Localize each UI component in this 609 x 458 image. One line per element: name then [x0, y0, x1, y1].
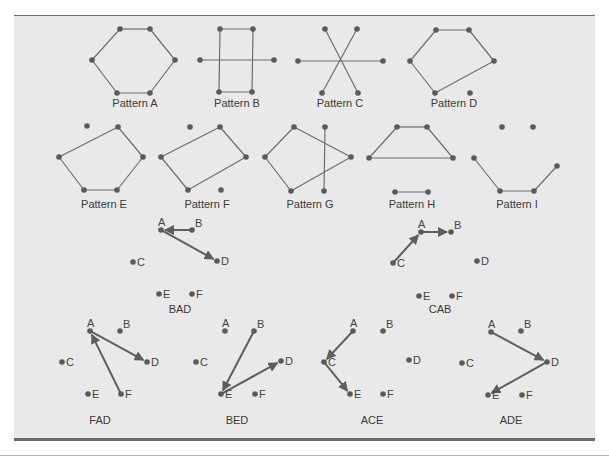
- point-label-b: B: [454, 219, 461, 231]
- node-dot: [140, 154, 146, 160]
- edge: [534, 166, 557, 191]
- point-label-b: B: [386, 318, 393, 330]
- point-dot: [118, 391, 124, 397]
- node-dot: [322, 26, 328, 32]
- point-label-d: D: [285, 355, 293, 367]
- point-dot: [448, 229, 454, 235]
- node-dot: [56, 154, 62, 160]
- point-dot: [144, 359, 150, 365]
- node-dot: [530, 124, 536, 130]
- edge: [161, 127, 220, 157]
- tour-bed: ABCDEFBED: [193, 317, 293, 426]
- edge: [150, 60, 175, 93]
- node-dot: [172, 57, 178, 63]
- node-dot: [217, 124, 223, 130]
- point-dot: [485, 392, 491, 398]
- point-label-a: A: [350, 317, 358, 329]
- point-label-e: E: [225, 388, 232, 400]
- point-dot: [380, 391, 386, 397]
- point-label-f: F: [387, 388, 394, 400]
- edge: [92, 29, 120, 60]
- point-label-f: F: [125, 388, 132, 400]
- node-dot: [147, 90, 153, 96]
- point-label-c: C: [137, 256, 145, 268]
- point-dot: [158, 227, 164, 233]
- edge: [324, 127, 325, 191]
- pattern-e: Pattern E: [56, 123, 146, 210]
- edge: [150, 29, 175, 60]
- node-dot: [407, 58, 413, 64]
- node-dot: [425, 189, 431, 195]
- point-label-d: D: [551, 356, 559, 368]
- point-label-c: C: [328, 356, 336, 368]
- tour-label: BED: [226, 414, 249, 426]
- tour-label: BAD: [169, 303, 192, 315]
- node-dot: [197, 57, 203, 63]
- edge: [294, 127, 351, 157]
- edge: [265, 157, 291, 191]
- point-dot: [193, 359, 199, 365]
- arrow-A-D: [493, 333, 544, 360]
- point-dot: [252, 391, 258, 397]
- point-label-e: E: [163, 288, 170, 300]
- point-label-b: B: [257, 318, 264, 330]
- edge: [427, 127, 453, 158]
- node-dot: [466, 27, 472, 33]
- node-dot: [216, 89, 222, 95]
- tour-cab: ABCDEFCAB: [390, 218, 489, 315]
- pattern-i: Pattern I: [471, 124, 560, 210]
- node-dot: [322, 124, 328, 130]
- point-label-e: E: [423, 290, 430, 302]
- point-dot: [418, 229, 424, 235]
- pattern-f: Pattern F: [158, 124, 249, 210]
- point-label-e: E: [92, 388, 99, 400]
- node-dot: [432, 90, 438, 96]
- node-dot: [467, 90, 473, 96]
- pattern-label: Pattern E: [81, 198, 127, 210]
- point-dot: [278, 358, 284, 364]
- point-dot: [488, 329, 494, 335]
- node-dot: [249, 89, 255, 95]
- node-dot: [114, 187, 120, 193]
- pattern-a: Pattern A: [89, 26, 178, 109]
- edge: [410, 30, 436, 61]
- node-dot: [158, 154, 164, 160]
- node-dot: [394, 124, 400, 130]
- point-dot: [218, 391, 224, 397]
- node-dot: [288, 188, 294, 194]
- point-label-f: F: [526, 389, 533, 401]
- point-label-a: A: [418, 218, 426, 230]
- pattern-g: Pattern G: [262, 124, 354, 210]
- node-dot: [491, 58, 497, 64]
- pattern-label: Pattern F: [184, 198, 230, 210]
- point-dot: [59, 359, 65, 365]
- pattern-label: Pattern H: [389, 198, 436, 210]
- node-dot: [185, 187, 191, 193]
- point-dot: [474, 258, 480, 264]
- edge: [265, 127, 294, 157]
- pattern-label: Pattern G: [286, 198, 333, 210]
- edge: [161, 157, 188, 190]
- node-dot: [81, 187, 87, 193]
- point-dot: [416, 293, 422, 299]
- node-dot: [499, 124, 505, 130]
- node-dot: [348, 154, 354, 160]
- edge: [220, 127, 246, 157]
- edge: [435, 61, 494, 93]
- pattern-b: Pattern B: [197, 26, 277, 109]
- edge: [118, 127, 143, 157]
- pattern-label: Pattern D: [431, 97, 478, 109]
- point-label-e: E: [354, 388, 361, 400]
- patterns-layer: Pattern APattern BPattern CPattern DPatt…: [56, 26, 560, 210]
- node-dot: [114, 90, 120, 96]
- point-dot: [459, 360, 465, 366]
- node-dot: [531, 188, 537, 194]
- arrow-A-D: [92, 332, 144, 360]
- pattern-label: Pattern B: [214, 97, 260, 109]
- node-dot: [84, 123, 90, 129]
- node-dot: [271, 57, 277, 63]
- tour-label: ACE: [361, 414, 384, 426]
- edge: [59, 157, 84, 190]
- point-dot: [380, 328, 386, 334]
- node-dot: [433, 27, 439, 33]
